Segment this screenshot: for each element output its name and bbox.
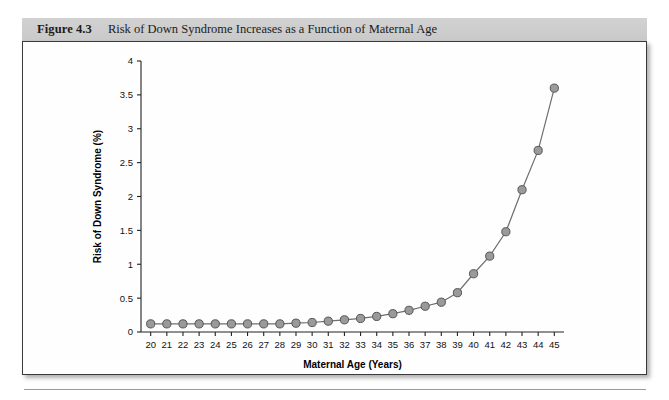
data-point: [421, 302, 429, 310]
data-point: [550, 84, 558, 92]
plot-area: 00.511.522.533.5420212223242526272829303…: [23, 42, 646, 374]
y-axis-title: Risk of Down Syndrome (%): [92, 130, 103, 263]
data-point: [179, 320, 187, 328]
y-axis-tick-label: 1: [128, 259, 133, 270]
x-axis-title: Maternal Age (Years): [303, 359, 402, 370]
data-point: [324, 317, 332, 325]
x-axis-tick-label: 25: [226, 339, 237, 350]
line-chart: 00.511.522.533.5420212223242526272829303…: [23, 42, 646, 374]
data-point: [276, 320, 284, 328]
data-point: [405, 306, 413, 314]
data-point: [373, 312, 381, 320]
data-point: [340, 316, 348, 324]
data-point: [292, 319, 300, 327]
x-axis-tick-label: 33: [355, 339, 366, 350]
x-axis-tick-label: 27: [258, 339, 269, 350]
chart-panel: 00.511.522.533.5420212223242526272829303…: [22, 41, 647, 375]
figure-caption-bar: Figure 4.3 Risk of Down Syndrome Increas…: [22, 18, 647, 41]
x-axis-tick-label: 37: [420, 339, 431, 350]
x-axis-tick-label: 35: [388, 339, 399, 350]
data-line: [151, 88, 555, 324]
data-point: [356, 314, 364, 322]
x-axis-tick-label: 43: [517, 339, 528, 350]
figure-page: Figure 4.3 Risk of Down Syndrome Increas…: [0, 0, 669, 400]
data-point: [518, 186, 526, 194]
data-point: [453, 289, 461, 297]
x-axis-tick-label: 21: [162, 339, 173, 350]
x-axis-tick-label: 45: [549, 339, 560, 350]
x-axis-tick-label: 23: [194, 339, 205, 350]
y-axis-tick-label: 0: [128, 326, 133, 337]
data-point: [227, 320, 235, 328]
x-axis-tick-label: 40: [468, 339, 479, 350]
x-axis-tick-label: 28: [275, 339, 286, 350]
x-axis-tick-label: 22: [178, 339, 189, 350]
data-point: [389, 310, 397, 318]
data-point: [486, 252, 494, 260]
x-axis-tick-label: 20: [145, 339, 156, 350]
data-point: [534, 146, 542, 154]
x-axis-tick-label: 36: [404, 339, 415, 350]
y-axis-tick-label: 4: [128, 55, 133, 66]
x-axis-tick-label: 31: [323, 339, 334, 350]
x-axis-tick-label: 32: [339, 339, 350, 350]
y-axis-tick-label: 2.5: [120, 157, 133, 168]
x-axis-tick-label: 34: [371, 339, 382, 350]
data-point: [437, 298, 445, 306]
data-point: [147, 320, 155, 328]
x-axis-tick-label: 44: [533, 339, 544, 350]
y-axis-tick-label: 3: [128, 123, 133, 134]
x-axis-tick-label: 24: [210, 339, 221, 350]
data-point: [195, 320, 203, 328]
x-axis-tick-label: 26: [242, 339, 253, 350]
figure-title: Risk of Down Syndrome Increases as a Fun…: [108, 22, 437, 37]
x-axis-tick-label: 39: [452, 339, 463, 350]
data-point: [308, 318, 316, 326]
page-divider: [24, 389, 646, 390]
x-axis-tick-label: 41: [484, 339, 495, 350]
x-axis-tick-label: 38: [436, 339, 447, 350]
x-axis-tick-label: 30: [307, 339, 318, 350]
data-point: [502, 228, 510, 236]
data-point: [211, 320, 219, 328]
x-axis-tick-label: 29: [291, 339, 302, 350]
data-point: [243, 320, 251, 328]
data-point: [469, 270, 477, 278]
y-axis-tick-label: 1.5: [120, 225, 133, 236]
data-point: [163, 320, 171, 328]
y-axis-tick-label: 3.5: [120, 89, 133, 100]
y-axis-tick-label: 0.5: [120, 293, 133, 304]
y-axis-tick-label: 2: [128, 191, 133, 202]
x-axis-tick-label: 42: [501, 339, 512, 350]
data-point: [260, 320, 268, 328]
figure-number: Figure 4.3: [37, 22, 92, 37]
